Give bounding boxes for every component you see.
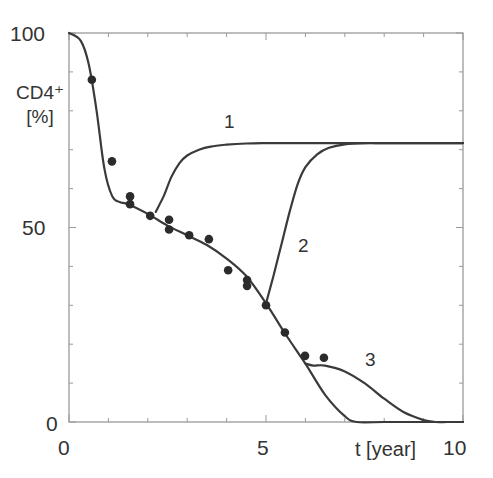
x-tick-label-10: 10 (443, 437, 466, 458)
data-point (185, 231, 194, 240)
data-point (224, 266, 233, 275)
data-point (126, 200, 135, 209)
curve-label-3: 3 (365, 350, 376, 369)
y-axis-label: CD4⁺ [%] (16, 82, 64, 128)
data-point (262, 301, 271, 310)
data-point (281, 328, 290, 337)
data-points (88, 75, 329, 362)
curve-2 (266, 143, 463, 303)
data-point (146, 212, 155, 221)
y-axis-label-line-2: [%] (16, 106, 64, 128)
data-point (88, 75, 97, 84)
curve-label-1: 1 (224, 112, 235, 131)
axis-ticks (69, 33, 463, 422)
curves (69, 33, 463, 422)
data-point (243, 282, 252, 291)
data-point (205, 235, 214, 244)
plot-frame (69, 33, 463, 422)
data-point (301, 352, 310, 361)
data-point (126, 192, 135, 201)
y-axis-label-line-1: CD4⁺ (16, 82, 64, 104)
y-tick-label-0: 0 (46, 413, 58, 434)
x-tick-label-5: 5 (257, 437, 269, 458)
curve-3 (305, 364, 463, 423)
x-tick-label-0: 0 (58, 437, 70, 458)
y-tick-label-50: 50 (22, 217, 45, 238)
curve-1 (156, 143, 463, 212)
data-point (165, 215, 174, 224)
y-tick-label-100: 100 (10, 23, 45, 44)
plot-border (69, 33, 463, 422)
cd4-line-chart (0, 0, 493, 478)
data-point (320, 354, 329, 363)
curve-label-2: 2 (298, 236, 309, 255)
curve-baseline (69, 33, 463, 422)
x-axis-label: t [year] (355, 438, 416, 461)
data-point (108, 157, 117, 166)
data-point (165, 225, 174, 234)
